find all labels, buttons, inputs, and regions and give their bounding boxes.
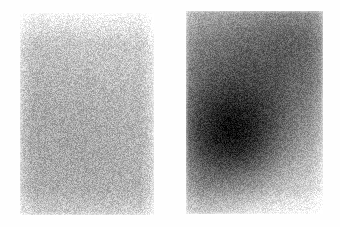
panel-left-noise-canvas <box>20 13 154 215</box>
panel-right-noise-canvas <box>186 11 323 214</box>
panel-right <box>186 11 323 214</box>
panel-left <box>20 13 154 215</box>
figure-root <box>0 0 340 227</box>
